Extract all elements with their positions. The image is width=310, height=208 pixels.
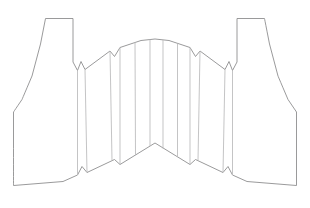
fold-5 (135, 42, 136, 155)
panel-outline-path (14, 19, 297, 186)
drawing-canvas: Pleated Panel Pattern Outline Line-art t… (0, 0, 310, 208)
pattern-outline-drawing: Pleated Panel Pattern Outline Line-art t… (0, 0, 310, 208)
